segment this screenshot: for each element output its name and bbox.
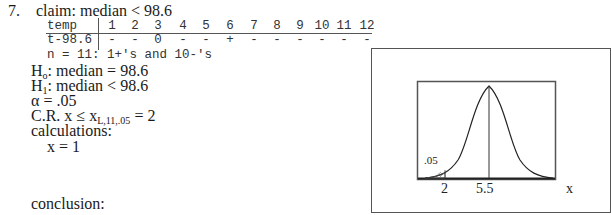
tick-label-center: 5.5 bbox=[476, 181, 494, 196]
tick-label-critical: 2 bbox=[441, 181, 448, 196]
tail-area-label: .05 bbox=[424, 154, 438, 166]
x-axis-label: x bbox=[566, 181, 573, 196]
plot-frame bbox=[418, 82, 556, 180]
